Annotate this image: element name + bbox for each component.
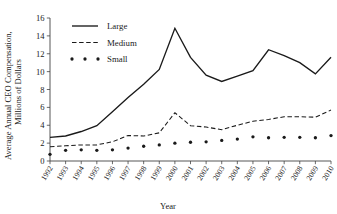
x-tick-label: 1995 [86,164,102,182]
y-tick-label: 10 [36,67,45,77]
ceo-compensation-line-chart: Average Annual CEO Compensation, Million… [0,0,337,214]
y-tick-label: 16 [36,13,45,23]
legend-swatch-dotted [83,57,86,60]
data-point [64,149,67,152]
data-point [220,139,223,142]
x-tick-label: 1997 [117,164,133,182]
data-point [189,141,192,144]
x-tick-label: 1996 [101,164,117,182]
x-tick-label: 1993 [55,164,71,182]
y-tick-label: 2 [40,138,44,148]
chart-container: Average Annual CEO Compensation, Million… [0,0,337,214]
legend-item-small: Small [70,54,128,64]
y-tick-label: 12 [36,49,45,59]
data-point [267,136,270,139]
x-tick-label: 2006 [258,164,274,182]
legend-swatch-dotted [70,57,73,60]
legend-swatch-dotted [96,57,99,60]
legend-label: Medium [107,38,137,48]
x-axis-ticks: 1992199319941995199619971998199920002001… [39,161,336,182]
x-tick-label: 2003 [211,164,227,182]
data-point [48,153,51,156]
x-tick-label: 1992 [39,164,55,182]
x-tick-label: 2005 [242,164,258,182]
data-point [95,149,98,152]
x-axis-title: Year [160,201,176,211]
series-group [48,28,332,156]
legend-item-medium: Medium [72,38,137,48]
data-point [314,136,317,139]
x-tick-label: 2007 [273,164,289,182]
data-point [111,148,114,151]
data-point [329,134,332,137]
y-tick-label: 14 [36,31,45,41]
series-small [48,134,332,156]
x-tick-label: 2009 [304,164,320,182]
y-tick-label: 0 [40,156,44,166]
chart-legend: LargeMediumSmall [70,21,137,64]
x-tick-label: 2004 [226,164,242,182]
data-point [142,145,145,148]
y-axis-title-line1: Average Annual CEO Compensation, [3,31,13,160]
x-tick-label: 2001 [180,164,196,182]
y-tick-label: 8 [40,85,44,95]
x-tick-label: 2002 [195,164,211,182]
data-point [158,143,161,146]
x-tick-label: 2010 [320,164,336,182]
legend-item-large: Large [72,21,127,31]
x-tick-label: 2008 [289,164,305,182]
y-axis-title: Average Annual CEO Compensation, Million… [3,31,23,160]
legend-label: Large [107,21,127,31]
y-axis-ticks: 0246810121416 [36,13,50,166]
series-large [50,28,331,137]
data-point [173,141,176,144]
y-tick-label: 4 [40,120,45,130]
data-point [236,137,239,140]
y-axis-title-line2: Millions of Dollars [13,58,23,125]
data-point [204,140,207,143]
data-point [283,136,286,139]
data-point [80,148,83,151]
legend-label: Small [107,54,128,64]
data-point [126,146,129,149]
x-tick-label: 2000 [164,164,180,182]
x-tick-label: 1999 [148,164,164,182]
data-point [251,135,254,138]
x-tick-label: 1994 [70,164,86,182]
x-tick-label: 1998 [133,164,149,182]
data-point [298,136,301,139]
y-tick-label: 6 [40,102,44,112]
